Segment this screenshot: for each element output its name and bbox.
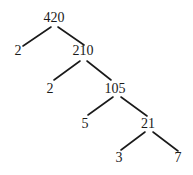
tree-node-label: 2 [47, 81, 54, 96]
tree-edge-n21-n7 [153, 132, 178, 151]
tree-node-label: 21 [141, 116, 155, 131]
tree-node-label: 7 [175, 150, 182, 165]
tree-edge-n210-n105 [87, 61, 111, 80]
factor-tree-diagram: 4202210210552137 [0, 0, 193, 175]
tree-edge-n210-n2b [54, 61, 80, 80]
tree-node-label: 3 [116, 150, 123, 165]
tree-edge-n21-n3 [121, 132, 145, 150]
tree-node-label: 210 [73, 43, 94, 58]
tree-edge-n105-n5 [88, 97, 113, 115]
tree-node-label: 2 [15, 43, 22, 58]
tree-edge-n420-n2a [23, 27, 51, 46]
tree-node-label: 105 [105, 81, 126, 96]
tree-node-label: 420 [44, 10, 65, 25]
tree-nodes: 4202210210552137 [15, 10, 182, 165]
tree-edge-n105-n21 [121, 97, 147, 116]
tree-node-label: 5 [82, 116, 89, 131]
